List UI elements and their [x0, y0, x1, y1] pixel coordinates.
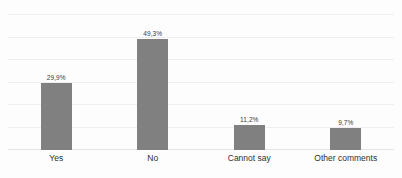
bar[interactable] — [137, 39, 168, 150]
category-label-cannot-say: Cannot say — [228, 153, 271, 163]
category-label-yes: Yes — [49, 153, 63, 163]
category-label-other-comments: Other comments — [314, 153, 377, 163]
bar-group: 49,3% — [137, 15, 168, 150]
category-label-no: No — [147, 153, 158, 163]
bar-chart: 29,9%49,3%11,2%9,7% YesNoCannot sayOther… — [0, 0, 402, 178]
x-axis-category-labels: YesNoCannot sayOther comments — [8, 153, 394, 173]
bar-group: 11,2% — [234, 15, 265, 150]
bar[interactable] — [41, 83, 72, 150]
bar-value-label: 11,2% — [240, 116, 258, 123]
bar-value-label: 9,7% — [338, 119, 353, 126]
bar-value-label: 29,9% — [47, 74, 66, 81]
plot-area: 29,9%49,3%11,2%9,7% — [8, 15, 394, 150]
bar-group: 29,9% — [41, 15, 72, 150]
bar-group: 9,7% — [330, 15, 361, 150]
bar-value-label: 49,3% — [143, 30, 162, 37]
bars-layer: 29,9%49,3%11,2%9,7% — [8, 15, 394, 150]
bar[interactable] — [234, 125, 265, 150]
bar[interactable] — [330, 128, 361, 150]
